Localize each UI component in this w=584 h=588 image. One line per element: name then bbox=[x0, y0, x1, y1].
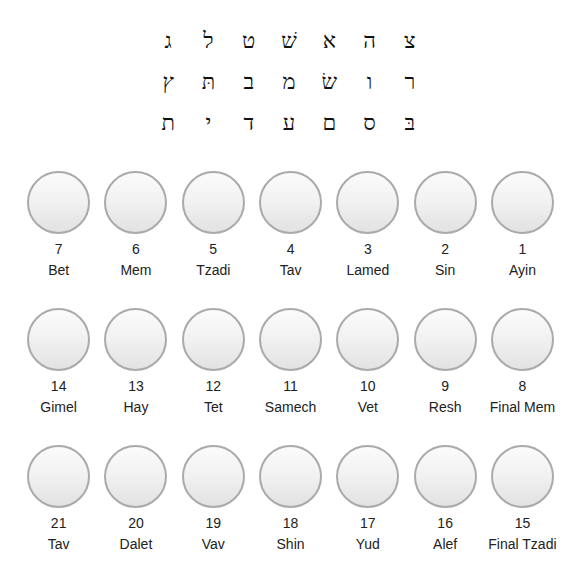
slot-letter-name: Sin bbox=[435, 261, 455, 279]
hebrew-letter-grid: ג ל ט שׁ א ה צ ץ תּ ב מ שׂ ו ר ת י ד ע ם… bbox=[148, 20, 430, 143]
hebrew-letter[interactable]: ם bbox=[309, 102, 349, 143]
drop-target-circle[interactable] bbox=[414, 171, 477, 234]
drop-target-circle[interactable] bbox=[414, 445, 477, 508]
slot-number: 9 bbox=[441, 377, 449, 395]
drop-slot: 2 Sin bbox=[406, 171, 483, 279]
drop-slot: 13 Hay bbox=[97, 308, 174, 416]
drop-target-circle[interactable] bbox=[491, 171, 554, 234]
hebrew-letter[interactable]: ת bbox=[148, 102, 188, 143]
slot-letter-name: Lamed bbox=[346, 261, 389, 279]
drop-target-circle[interactable] bbox=[414, 308, 477, 371]
drop-target-circle[interactable] bbox=[104, 171, 167, 234]
drop-slot: 7 Bet bbox=[20, 171, 97, 279]
drop-target-circle[interactable] bbox=[182, 445, 245, 508]
hebrew-letter[interactable]: שׁ bbox=[269, 20, 309, 61]
hebrew-letter[interactable]: ג bbox=[148, 20, 188, 61]
drop-target-circle[interactable] bbox=[27, 171, 90, 234]
slot-letter-name: Bet bbox=[48, 261, 69, 279]
drop-target-circle[interactable] bbox=[27, 445, 90, 508]
drop-slot: 8 Final Mem bbox=[484, 308, 561, 416]
hebrew-letter[interactable]: בּ bbox=[390, 102, 430, 143]
slot-letter-name: Tzadi bbox=[196, 261, 230, 279]
slot-letter-name: Shin bbox=[277, 535, 305, 553]
hebrew-letter[interactable]: ב bbox=[229, 61, 269, 102]
drop-slot: 9 Resh bbox=[406, 308, 483, 416]
slot-letter-name: Mem bbox=[120, 261, 151, 279]
slot-number: 20 bbox=[128, 514, 144, 532]
drop-target-circle[interactable] bbox=[182, 308, 245, 371]
slot-number: 15 bbox=[515, 514, 531, 532]
slot-letter-name: Yud bbox=[356, 535, 380, 553]
drop-target-circle[interactable] bbox=[259, 308, 322, 371]
drop-target-circle[interactable] bbox=[182, 171, 245, 234]
drop-slot: 5 Tzadi bbox=[175, 171, 252, 279]
hebrew-letter[interactable]: שׂ bbox=[309, 61, 349, 102]
drop-target-row-3: 21 Tav 20 Dalet 19 Vav 18 Shin 17 Yud 16… bbox=[20, 445, 564, 553]
hebrew-letter[interactable]: ו bbox=[349, 61, 389, 102]
drop-slot: 19 Vav bbox=[175, 445, 252, 553]
drop-slot: 21 Tav bbox=[20, 445, 97, 553]
hebrew-letter[interactable]: ע bbox=[269, 102, 309, 143]
slot-letter-name: Alef bbox=[433, 535, 457, 553]
drop-target-circle[interactable] bbox=[491, 445, 554, 508]
slot-letter-name: Vet bbox=[358, 398, 378, 416]
drop-slot: 14 Gimel bbox=[20, 308, 97, 416]
hebrew-letter[interactable]: ץ bbox=[148, 61, 188, 102]
slot-number: 10 bbox=[360, 377, 376, 395]
drop-slot: 4 Tav bbox=[252, 171, 329, 279]
hebrew-letter[interactable]: תּ bbox=[188, 61, 228, 102]
drop-target-circle[interactable] bbox=[104, 308, 167, 371]
hebrew-letter[interactable]: מ bbox=[269, 61, 309, 102]
slot-number: 4 bbox=[287, 240, 295, 258]
drop-slot: 12 Tet bbox=[175, 308, 252, 416]
slot-letter-name: Final Mem bbox=[490, 398, 555, 416]
slot-letter-name: Tav bbox=[48, 535, 70, 553]
drop-target-circle[interactable] bbox=[336, 171, 399, 234]
drop-target-circle[interactable] bbox=[336, 445, 399, 508]
drop-slot: 17 Yud bbox=[329, 445, 406, 553]
drop-target-row-1: 7 Bet 6 Mem 5 Tzadi 4 Tav 3 Lamed 2 Sin … bbox=[20, 171, 564, 279]
letter-row-1: ג ל ט שׁ א ה צ bbox=[148, 20, 430, 61]
hebrew-letter[interactable]: י bbox=[188, 102, 228, 143]
slot-number: 7 bbox=[55, 240, 63, 258]
drop-target-circle[interactable] bbox=[336, 308, 399, 371]
slot-letter-name: Vav bbox=[202, 535, 225, 553]
slot-letter-name: Samech bbox=[265, 398, 316, 416]
hebrew-letter[interactable]: א bbox=[309, 20, 349, 61]
letter-row-3: ת י ד ע ם ס בּ bbox=[148, 102, 430, 143]
slot-number: 8 bbox=[519, 377, 527, 395]
slot-number: 21 bbox=[51, 514, 67, 532]
drop-target-circle[interactable] bbox=[27, 308, 90, 371]
slot-letter-name: Ayin bbox=[509, 261, 536, 279]
slot-number: 17 bbox=[360, 514, 376, 532]
slot-number: 12 bbox=[205, 377, 221, 395]
drop-target-row-2: 14 Gimel 13 Hay 12 Tet 11 Samech 10 Vet … bbox=[20, 308, 564, 416]
drop-slot: 15 Final Tzadi bbox=[484, 445, 561, 553]
hebrew-letter[interactable]: ס bbox=[349, 102, 389, 143]
drop-slot: 16 Alef bbox=[406, 445, 483, 553]
slot-letter-name: Dalet bbox=[120, 535, 153, 553]
drop-target-circle[interactable] bbox=[104, 445, 167, 508]
hebrew-letter[interactable]: ט bbox=[229, 20, 269, 61]
hebrew-letter[interactable]: ד bbox=[229, 102, 269, 143]
drop-slot: 18 Shin bbox=[252, 445, 329, 553]
drop-target-circle[interactable] bbox=[259, 171, 322, 234]
drop-slot: 11 Samech bbox=[252, 308, 329, 416]
hebrew-letter[interactable]: ה bbox=[349, 20, 389, 61]
drop-target-circle[interactable] bbox=[491, 308, 554, 371]
hebrew-letter[interactable]: צ bbox=[390, 20, 430, 61]
drop-slot: 20 Dalet bbox=[97, 445, 174, 553]
hebrew-letter[interactable]: ל bbox=[188, 20, 228, 61]
drop-slot: 3 Lamed bbox=[329, 171, 406, 279]
slot-number: 19 bbox=[205, 514, 221, 532]
slot-letter-name: Tav bbox=[280, 261, 302, 279]
hebrew-letter[interactable]: ר bbox=[390, 61, 430, 102]
slot-letter-name: Resh bbox=[429, 398, 462, 416]
drop-slot: 1 Ayin bbox=[484, 171, 561, 279]
drop-target-circle[interactable] bbox=[259, 445, 322, 508]
slot-number: 5 bbox=[209, 240, 217, 258]
slot-number: 16 bbox=[437, 514, 453, 532]
slot-letter-name: Gimel bbox=[40, 398, 77, 416]
slot-number: 18 bbox=[283, 514, 299, 532]
drop-slot: 6 Mem bbox=[97, 171, 174, 279]
